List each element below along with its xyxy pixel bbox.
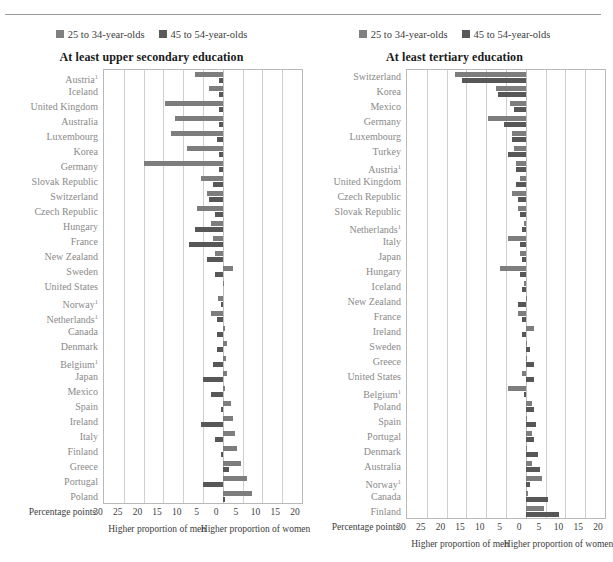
gridline	[585, 99, 586, 114]
chart-row: Iceland	[0, 84, 303, 99]
zero-line	[223, 114, 224, 129]
gridline	[565, 429, 566, 444]
gridline	[183, 489, 184, 503]
gridline	[565, 234, 566, 249]
legend-item-young-left: 25 to 34-year-olds	[56, 29, 145, 40]
gridline	[447, 354, 448, 369]
gridline	[163, 384, 164, 399]
gridline	[124, 294, 125, 309]
gridline	[124, 234, 125, 249]
bar-young	[522, 371, 526, 376]
bar-track	[103, 474, 303, 489]
bar-young	[512, 131, 526, 136]
bar-track	[103, 84, 303, 99]
gridline	[144, 489, 145, 503]
bar-track	[406, 309, 606, 324]
gridline	[506, 129, 507, 144]
bar-young	[508, 386, 526, 391]
gridline	[282, 309, 283, 324]
country-label: Italy	[303, 234, 406, 249]
gridline	[585, 204, 586, 219]
gridline	[466, 99, 467, 114]
gridline	[124, 279, 125, 294]
bar-old	[526, 437, 534, 442]
gridline	[124, 144, 125, 159]
chart-row: Luxembourg	[303, 129, 606, 144]
gridline	[282, 279, 283, 294]
gridline	[565, 204, 566, 219]
axis-tick: 20	[436, 522, 446, 532]
zero-line	[526, 129, 527, 144]
gridline	[183, 249, 184, 264]
gridline	[243, 414, 244, 429]
country-label: Iceland	[303, 279, 406, 294]
axis-notes-left: Higher proportion of menHigher proportio…	[0, 524, 303, 542]
gridline	[124, 489, 125, 503]
bar-old	[207, 257, 223, 262]
gridline	[447, 324, 448, 339]
gridline	[282, 204, 283, 219]
bar-young	[197, 206, 223, 211]
gridline	[447, 174, 448, 189]
bar-old	[522, 287, 526, 292]
chart-row: Mexico	[303, 99, 606, 114]
bar-old	[201, 422, 223, 427]
gridline	[447, 84, 448, 99]
bar-young	[526, 446, 527, 451]
gridline	[565, 489, 566, 504]
gridline	[282, 159, 283, 174]
gridline	[546, 309, 547, 324]
bar-young	[223, 326, 225, 331]
gridline	[546, 264, 547, 279]
bar-track	[103, 234, 303, 249]
country-label: Denmark	[303, 444, 406, 459]
gridline	[585, 249, 586, 264]
zero-line	[223, 70, 224, 84]
chart-row: Italy	[303, 234, 606, 249]
gridline	[262, 384, 263, 399]
chart-row: Belgium1	[0, 354, 303, 369]
gridline	[447, 159, 448, 174]
gridline	[466, 369, 467, 384]
gridline	[262, 399, 263, 414]
zero-line	[223, 309, 224, 324]
gridline	[282, 114, 283, 129]
zero-line	[526, 234, 527, 249]
gridline	[466, 189, 467, 204]
gridline	[427, 129, 428, 144]
bar-young	[526, 461, 532, 466]
panel-title-left: At least upper secondary education	[0, 50, 303, 65]
gridline	[506, 444, 507, 459]
bar-old	[219, 152, 223, 157]
axis-tick: 15	[271, 507, 281, 517]
gridline	[546, 279, 547, 294]
bar-old	[508, 152, 526, 157]
zero-line	[526, 144, 527, 159]
bar-old	[526, 482, 530, 487]
gridline	[585, 354, 586, 369]
chart-row: Slovak Republic	[0, 174, 303, 189]
gridline	[506, 99, 507, 114]
bar-old	[219, 92, 223, 97]
bar-track	[103, 444, 303, 459]
bar-track	[103, 324, 303, 339]
gridline	[183, 444, 184, 459]
gridline	[163, 474, 164, 489]
gridline	[585, 324, 586, 339]
gridline	[124, 399, 125, 414]
gridline	[163, 204, 164, 219]
gridline	[486, 339, 487, 354]
gridline	[163, 219, 164, 234]
gridline	[144, 354, 145, 369]
gridline	[486, 429, 487, 444]
chart-row: New Zealand	[303, 294, 606, 309]
country-label: Canada	[0, 324, 103, 339]
gridline	[203, 84, 204, 99]
gridline	[203, 354, 204, 369]
gridline	[262, 444, 263, 459]
chart-row: Finland	[0, 444, 303, 459]
note-higher-women: Higher proportion of women	[504, 539, 613, 549]
zero-line	[526, 114, 527, 129]
gridline	[124, 70, 125, 84]
gridline	[486, 144, 487, 159]
